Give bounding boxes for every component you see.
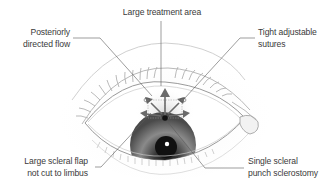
label-posteriorly-directed-flow: Posteriorly directed flow [0,27,70,50]
label-large-treatment-area: Large treatment area [112,7,212,19]
pupil [155,136,177,158]
label-large-scleral-flap: Large scleral flap not cut to limbus [0,156,88,179]
sclerostomy-punch [162,115,168,121]
eye-surgery-diagram: Large treatment area Posteriorly directe… [0,0,335,195]
pupil-highlight [165,142,169,146]
label-tight-adjustable-sutures: Tight adjustable sutures [258,27,317,50]
label-single-scleral-punch-sclerostomy: Single scleral punch sclerostomy [248,156,318,179]
